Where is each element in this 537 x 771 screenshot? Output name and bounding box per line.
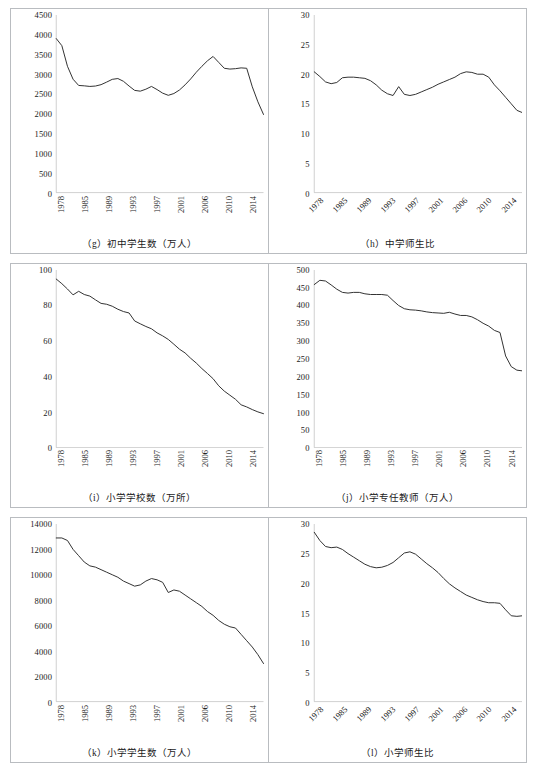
y-tick-label: 10000	[30, 571, 52, 580]
y-tick-label: 0	[305, 444, 309, 453]
y-tick-label: 350	[296, 319, 309, 328]
data-series-line	[56, 538, 263, 664]
x-tick-label: 2001	[176, 705, 186, 722]
y-tick-label: 20	[43, 408, 52, 417]
chart-svg	[313, 270, 523, 449]
y-tick-label: 30	[301, 11, 310, 20]
chart-panel-i: 020406080100 197819851989199319972001200…	[11, 264, 269, 508]
plot-area-h: 051015202530	[273, 15, 523, 194]
y-tick-label: 300	[296, 337, 309, 346]
plot-area-j: 050100150200250300350400450500	[273, 270, 523, 449]
y-tick-label: 500	[296, 265, 309, 274]
y-tick-label: 4000	[35, 648, 52, 657]
axis-lines	[314, 15, 522, 193]
y-tick-label: 40	[43, 373, 52, 382]
x-tick-label: 1985	[80, 196, 90, 213]
y-tick-label: 1000	[35, 150, 52, 159]
x-tick-label: 1993	[128, 705, 138, 722]
x-tick-label: 2014	[248, 705, 258, 722]
y-tick-label: 0	[48, 444, 52, 453]
y-tick-label: 30	[301, 520, 310, 529]
axis-lines	[56, 270, 263, 448]
x-tick-label: 2014	[248, 196, 258, 213]
y-tick-label: 50	[301, 426, 310, 435]
y-tick-label: 20	[301, 70, 310, 79]
y-tick-label: 15	[301, 609, 310, 618]
x-tick-label: 1985	[330, 195, 349, 214]
plot-area-l: 051015202530	[273, 524, 523, 703]
y-axis-labels-k: 02000400060008000100001200014000	[15, 524, 55, 703]
plot-area-g: 050010001500200025003000350040004500	[15, 15, 264, 194]
y-tick-label: 3000	[35, 70, 52, 79]
y-tick-label: 100	[296, 408, 309, 417]
y-tick-label: 15	[301, 100, 310, 109]
x-tick-label: 2006	[451, 195, 470, 214]
x-tick-label: 2006	[458, 450, 468, 467]
y-tick-label: 4500	[35, 11, 52, 20]
chart-panel-g: 050010001500200025003000350040004500 197…	[11, 9, 269, 253]
panel-caption-j: （j）小学专任教师（万人）	[273, 490, 523, 505]
x-tick-label: 1989	[354, 704, 373, 723]
chart-svg	[55, 270, 264, 449]
x-tick-label: 1978	[56, 450, 66, 467]
chart-canvas-k	[55, 524, 264, 703]
x-tick-label: 1978	[56, 705, 66, 722]
y-axis-labels-g: 050010001500200025003000350040004500	[15, 15, 55, 194]
data-series-line	[314, 533, 522, 617]
x-tick-label: 1997	[410, 450, 420, 467]
x-tick-label: 1989	[104, 450, 114, 467]
x-tick-label: 1997	[402, 704, 421, 723]
y-tick-label: 8000	[35, 597, 52, 606]
panel-caption-i: （i）小学学校数（万所）	[15, 490, 264, 505]
y-tick-label: 60	[43, 337, 52, 346]
x-tick-label: 2001	[176, 450, 186, 467]
x-tick-label: 1997	[152, 196, 162, 213]
chart-svg	[313, 524, 523, 703]
panel-caption-h: （h）中学师生比	[273, 236, 523, 251]
x-tick-label: 1997	[152, 705, 162, 722]
figure-block-row3: 02000400060008000100001200014000 1978198…	[10, 517, 527, 763]
chart-panel-l: 051015202530 197819851989199319972001200…	[269, 518, 527, 762]
chart-svg	[55, 524, 264, 703]
panel-caption-g: （g）初中学生数（万人）	[15, 236, 264, 251]
chart-svg	[55, 15, 264, 194]
x-axis-labels-k: 197819851989199319972001200620102014	[55, 703, 264, 745]
panel-caption-k: （k）小学学生数（万人）	[15, 745, 264, 760]
x-tick-label: 1993	[128, 450, 138, 467]
y-tick-label: 0	[305, 699, 309, 708]
y-tick-label: 0	[48, 699, 52, 708]
x-tick-label: 2006	[200, 196, 210, 213]
plot-area-k: 02000400060008000100001200014000	[15, 524, 264, 703]
x-tick-label: 1989	[104, 196, 114, 213]
x-tick-label: 2014	[507, 450, 517, 467]
x-tick-label: 1985	[80, 450, 90, 467]
y-tick-label: 5	[305, 160, 309, 169]
x-tick-label: 1997	[152, 450, 162, 467]
x-tick-label: 2006	[200, 450, 210, 467]
axis-lines	[314, 524, 522, 702]
y-tick-label: 10	[301, 639, 310, 648]
data-series-line	[56, 39, 263, 115]
x-tick-label: 1989	[104, 705, 114, 722]
y-tick-label: 250	[296, 355, 309, 364]
x-tick-label: 2001	[176, 196, 186, 213]
y-tick-label: 3500	[35, 50, 52, 59]
y-tick-label: 6000	[35, 622, 52, 631]
x-tick-label: 2010	[224, 196, 234, 213]
x-tick-label: 1989	[362, 450, 372, 467]
x-tick-label: 1985	[330, 704, 349, 723]
y-tick-label: 450	[296, 283, 309, 292]
y-tick-label: 150	[296, 390, 309, 399]
y-tick-label: 4000	[35, 31, 52, 40]
x-tick-label: 2001	[434, 450, 444, 467]
y-tick-label: 14000	[30, 520, 52, 529]
figure-block-row2: 020406080100 197819851989199319972001200…	[10, 263, 527, 509]
chart-panel-j: 050100150200250300350400450500 197819851…	[269, 264, 527, 508]
x-tick-label: 2014	[499, 704, 518, 723]
y-tick-label: 100	[39, 265, 52, 274]
x-tick-label: 1978	[314, 450, 324, 467]
chart-panel-h: 051015202530 197819851989199319972001200…	[269, 9, 527, 253]
x-tick-label: 2010	[475, 704, 494, 723]
y-tick-label: 10	[301, 130, 310, 139]
y-tick-label: 5	[305, 669, 309, 678]
